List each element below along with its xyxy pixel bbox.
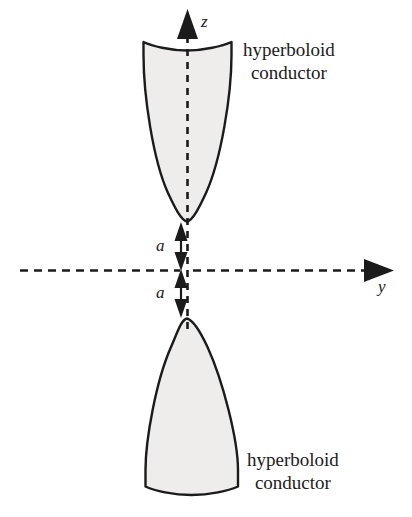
y-axis-label: y [378, 277, 386, 298]
lower-conductor-caption: hyperboloid conductor [247, 448, 339, 494]
hyperboloid-conductor-figure: z y a a hyperboloid conductor hyperboloi… [0, 0, 412, 517]
upper-dimension-arrow [175, 222, 188, 271]
figure-canvas [0, 0, 412, 517]
lower-hyperboloid-shape [146, 319, 239, 496]
lower-conductor-caption-line2: conductor [247, 471, 339, 494]
lower-conductor-caption-line1: hyperboloid [247, 448, 339, 471]
lower-dimension-arrow [175, 269, 188, 318]
upper-distance-label: a [156, 236, 165, 257]
upper-conductor-caption-line2: conductor [243, 61, 335, 84]
upper-conductor-caption: hyperboloid conductor [243, 38, 335, 84]
upper-conductor-caption-line1: hyperboloid [243, 38, 335, 61]
z-axis-label: z [201, 12, 208, 33]
z-axis-arrowhead [177, 9, 198, 39]
lower-distance-label: a [156, 283, 165, 304]
